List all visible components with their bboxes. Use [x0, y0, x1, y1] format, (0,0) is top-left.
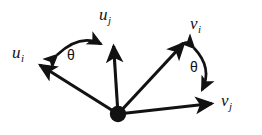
label-u-j: uj: [99, 6, 111, 26]
label-u-i-base: u: [12, 43, 21, 62]
angle-arcs: [57, 40, 206, 90]
vector-angle-diagram: ui uj vi vj θ θ: [0, 0, 262, 135]
label-v-j: vj: [221, 92, 232, 112]
angle-label-theta-right: θ: [190, 60, 198, 74]
label-v-j-base: v: [221, 91, 229, 110]
label-v-i-base: v: [190, 14, 198, 33]
vector-u-i: [40, 65, 118, 114]
vector-shafts: [40, 43, 212, 114]
vector-v-j: [118, 104, 212, 115]
label-u-i: ui: [12, 44, 24, 64]
label-v-i: vi: [190, 15, 201, 35]
theta-left-arc: [57, 40, 101, 55]
vector-u-j: [114, 46, 118, 114]
vector-v-i: [118, 43, 184, 114]
origin-vertex-dot: [110, 106, 126, 122]
label-u-i-subscript: i: [21, 52, 24, 64]
label-v-j-subscript: j: [229, 100, 232, 112]
angle-label-theta-left: θ: [67, 48, 75, 62]
diagram-canvas: [0, 0, 262, 135]
label-v-i-subscript: i: [198, 23, 201, 35]
label-u-j-subscript: j: [108, 14, 111, 26]
label-u-j-base: u: [99, 5, 108, 24]
